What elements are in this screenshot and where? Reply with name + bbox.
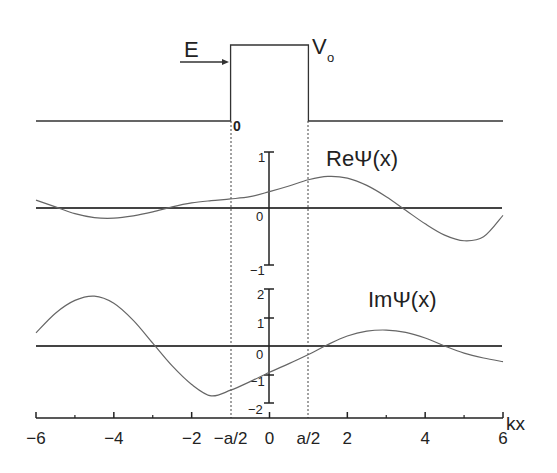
- x-special-label: a/2: [297, 429, 321, 448]
- im-y-tick-label-neg1: −1: [250, 374, 265, 389]
- im-y-tick-label-1: 1: [257, 316, 264, 331]
- tunneling-diagram: E V o 0 1 0 −1 ReΨ(x) 2 1 0 −1 −2 ImΨ(x): [0, 0, 557, 473]
- x-special-label: −a/2: [214, 429, 248, 448]
- re-psi-panel: 1 0 −1 ReΨ(x): [36, 146, 503, 278]
- origin-label: 0: [233, 118, 241, 134]
- x-tick-label: 2: [343, 429, 352, 448]
- im-psi-panel: 2 1 0 −1 −2 ImΨ(x): [36, 287, 503, 417]
- im-y-tick-label-2: 2: [257, 287, 264, 302]
- x-axis: −6−4−2246−a/20a/2 kx: [26, 412, 525, 448]
- arrow-head-icon: [222, 59, 229, 65]
- x-axis-label: kx: [506, 413, 526, 434]
- potential-barrier: E V o 0: [36, 34, 503, 134]
- re-y-tick-label-neg1: −1: [250, 263, 265, 278]
- im-y-tick-label-neg2: −2: [248, 402, 263, 417]
- barrier-outline: [36, 45, 503, 121]
- x-tick-label: 4: [420, 429, 429, 448]
- x-tick-label: −6: [26, 429, 45, 448]
- re-psi-label: ReΨ(x): [326, 146, 398, 171]
- im-psi-label: ImΨ(x): [368, 287, 436, 312]
- x-tick-label: −4: [104, 429, 123, 448]
- energy-label: E: [184, 37, 199, 62]
- x-special-label: 0: [265, 429, 274, 448]
- re-y-tick-label-1: 1: [258, 150, 265, 165]
- x-tick-label: −2: [182, 429, 201, 448]
- im-y-tick-label-0: 0: [256, 347, 263, 362]
- re-y-tick-label-0: 0: [256, 209, 263, 224]
- potential-subscript: o: [327, 50, 334, 65]
- potential-label: V: [312, 34, 327, 59]
